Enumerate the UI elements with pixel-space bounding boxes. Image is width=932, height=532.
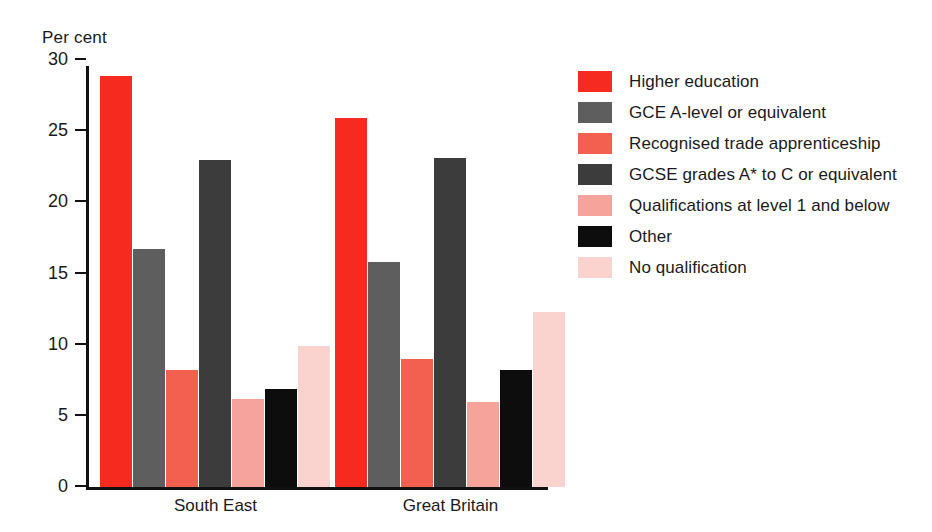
bar <box>401 359 433 487</box>
legend-label: No qualification <box>629 258 747 278</box>
y-tick-label: 25 <box>48 120 68 141</box>
plot-area: 051015202530 South EastGreat Britain <box>86 60 548 490</box>
bar <box>533 312 565 487</box>
legend-color-swatch <box>578 71 612 92</box>
bar <box>199 160 231 487</box>
bar <box>368 262 400 487</box>
y-tick-label: 0 <box>58 476 68 497</box>
legend-label: Qualifications at level 1 and below <box>629 196 890 216</box>
y-tick-label: 5 <box>58 404 68 425</box>
bar <box>500 370 532 487</box>
category-label: Great Britain <box>403 496 498 516</box>
y-tick: 5 <box>75 414 86 416</box>
legend-label: Recognised trade apprenticeship <box>629 134 881 154</box>
y-axis-title: Per cent <box>42 28 107 48</box>
y-tick: 30 <box>75 58 86 60</box>
bar <box>434 158 466 487</box>
legend-color-swatch <box>578 257 612 278</box>
bar <box>232 399 264 487</box>
y-tick: 0 <box>75 485 86 487</box>
legend-label: Higher education <box>629 72 759 92</box>
legend-item[interactable]: No qualification <box>578 252 928 283</box>
y-tick: 15 <box>75 272 86 274</box>
legend-item[interactable]: GCE A-level or equivalent <box>578 97 928 128</box>
y-tick-label: 20 <box>48 191 68 212</box>
bar <box>335 118 367 487</box>
legend-item[interactable]: Qualifications at level 1 and below <box>578 190 928 221</box>
y-tick-label: 15 <box>48 262 68 283</box>
legend-item[interactable]: Recognised trade apprenticeship <box>578 128 928 159</box>
legend-color-swatch <box>578 164 612 185</box>
bar <box>100 76 132 487</box>
chart-legend: Higher educationGCE A-level or equivalen… <box>578 66 928 283</box>
y-tick-label: 10 <box>48 333 68 354</box>
bar-chart-figure: Per cent 051015202530 South EastGreat Br… <box>0 0 932 532</box>
legend-color-swatch <box>578 102 612 123</box>
y-tick-label: 30 <box>48 49 68 70</box>
bar <box>467 402 499 487</box>
bar <box>298 346 330 487</box>
legend-color-swatch <box>578 195 612 216</box>
bar <box>166 370 198 487</box>
legend-color-swatch <box>578 226 612 247</box>
y-tick: 10 <box>75 343 86 345</box>
legend-label: GCE A-level or equivalent <box>629 103 826 123</box>
legend-label: GCSE grades A* to C or equivalent <box>629 165 897 185</box>
bar <box>133 249 165 487</box>
y-axis-line <box>86 66 89 490</box>
y-tick: 25 <box>75 129 86 131</box>
legend-item[interactable]: GCSE grades A* to C or equivalent <box>578 159 928 190</box>
legend-item[interactable]: Higher education <box>578 66 928 97</box>
bar <box>265 389 297 487</box>
category-label: South East <box>174 496 257 516</box>
x-axis-line <box>86 487 548 490</box>
legend-item[interactable]: Other <box>578 221 928 252</box>
legend-label: Other <box>629 227 672 247</box>
legend-color-swatch <box>578 133 612 154</box>
y-tick: 20 <box>75 200 86 202</box>
